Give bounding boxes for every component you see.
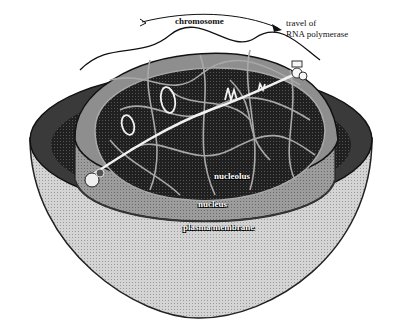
rna-polymerase-end bbox=[292, 61, 307, 80]
chromosome-label: chromosome bbox=[175, 17, 224, 26]
travel-label-line1: travel of bbox=[286, 19, 316, 28]
travel-label-line2: RNA polymerase bbox=[286, 30, 348, 39]
nucleolus-label: nucleolus bbox=[214, 172, 250, 181]
nucleus-label: nucleus bbox=[198, 200, 227, 209]
plasma-membrane-label: plasma membrane bbox=[183, 223, 254, 232]
cell-diagram bbox=[0, 0, 402, 335]
